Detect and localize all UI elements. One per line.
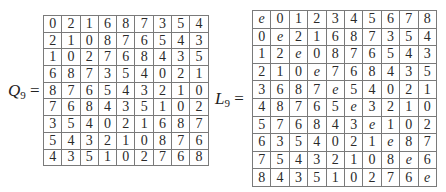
q9-cell: 0 [98,116,116,133]
l9-cell: 7 [289,98,307,116]
q9-cell: 7 [98,49,116,66]
q9-cell: 6 [153,116,171,133]
l9-cell: 5 [308,169,326,187]
q9-cell: 5 [153,32,171,49]
l9-row: 3687e54021 [253,81,437,99]
l9-cell: 6 [326,28,344,46]
l9-cell: 8 [381,151,399,169]
q9-cell: 1 [98,149,116,166]
l9-cell: 7 [381,169,399,187]
q9-cell: 1 [62,32,80,49]
l9-row: 576843e102 [253,116,437,134]
q9-cell: 2 [44,32,62,49]
q9-cell: 7 [44,99,62,116]
q9-cell: 0 [190,82,208,99]
l9-cell: 6 [363,46,381,64]
l9-row: 12e0876543 [253,46,437,64]
l9-cell: 6 [418,151,436,169]
q9-cell: 7 [135,16,153,33]
q9-cell: 5 [135,99,153,116]
q9-cell: 6 [135,32,153,49]
l9-cell: 7 [363,28,381,46]
l9-cell: 1 [289,11,307,29]
q9-cell: 1 [135,116,153,133]
l9-cell: e [308,63,326,81]
l9-cell: 2 [418,116,436,134]
q9-cell: 0 [44,16,62,33]
l9-cell: 8 [418,11,436,29]
l9-cell: 8 [253,169,271,187]
q9-row: 687354021 [44,66,209,83]
l9-cell: 1 [308,28,326,46]
q9-cell: 5 [62,116,80,133]
q9-cell: 0 [153,66,171,83]
q9-matrix: 0216873542108765431027684356873540218765… [43,15,209,166]
q9-cell: 4 [117,82,135,99]
q9-cell: 0 [62,49,80,66]
l9-cell: 4 [289,151,307,169]
q9-cell: 0 [80,32,98,49]
l9-cell: 2 [308,11,326,29]
l9-cell: 4 [253,98,271,116]
l9-cell: 4 [400,46,418,64]
q9-cell: 8 [80,99,98,116]
q9-cell: 3 [98,66,116,83]
l9-cell: 1 [418,81,436,99]
l9-cell: e [363,116,381,134]
l9-cell: 2 [253,63,271,81]
q9-cell: 6 [44,66,62,83]
l9-cell: e [344,98,362,116]
q9-row: 876543210 [44,82,209,99]
l9-cell: 4 [418,28,436,46]
q9-cell: 3 [62,149,80,166]
q9-row: 435102768 [44,149,209,166]
l9-cell: 2 [326,151,344,169]
l9-cell: 5 [363,11,381,29]
l9-matrix: e0123456780e2168735412e0876543210e768435… [252,10,437,187]
l9-row: 843510276e [253,169,437,187]
l9-cell: 4 [308,134,326,152]
l9-cell: 8 [289,81,307,99]
l9-cell: 3 [418,46,436,64]
l9-cell: 6 [381,11,399,29]
q9-cell: 5 [172,16,190,33]
q9-cell: 6 [190,132,208,149]
l9-cell: 3 [289,169,307,187]
l9-cell: 1 [381,116,399,134]
q9-cell: 1 [153,99,171,116]
q9-cell: 2 [172,66,190,83]
q9-cell: 6 [98,16,116,33]
l9-cell: 5 [381,46,399,64]
q9-cell: 3 [117,99,135,116]
q9-cell: 0 [172,99,190,116]
q9-cell: 8 [172,116,190,133]
l9-cell: 2 [344,134,362,152]
l9-cell: 0 [344,169,362,187]
q9-cell: 5 [80,149,98,166]
l9-row: e012345678 [253,11,437,29]
l9-cell: 7 [400,11,418,29]
l9-cell: 1 [400,98,418,116]
q9-cell: 2 [135,149,153,166]
l9-cell: 7 [253,151,271,169]
q9-cell: 7 [80,66,98,83]
l9-cell: 7 [271,116,289,134]
l9-cell: e [326,81,344,99]
q9-cell: 6 [117,49,135,66]
l9-cell: 3 [344,116,362,134]
l9-cell: 0 [381,81,399,99]
l9-cell: e [271,28,289,46]
l9-cell: 0 [363,151,381,169]
q9-cell: 7 [117,32,135,49]
q9-row: 021687354 [44,16,209,33]
l9-cell: 3 [308,151,326,169]
l9-cell: 3 [363,98,381,116]
l9-cell: 0 [253,28,271,46]
q9-cell: 8 [190,149,208,166]
l9-cell: e [253,11,271,29]
q9-cell: 1 [172,82,190,99]
q9-label-equals: = [26,81,40,100]
l9-cell: 8 [400,134,418,152]
q9-cell: 8 [62,66,80,83]
l9-cell: 2 [400,81,418,99]
